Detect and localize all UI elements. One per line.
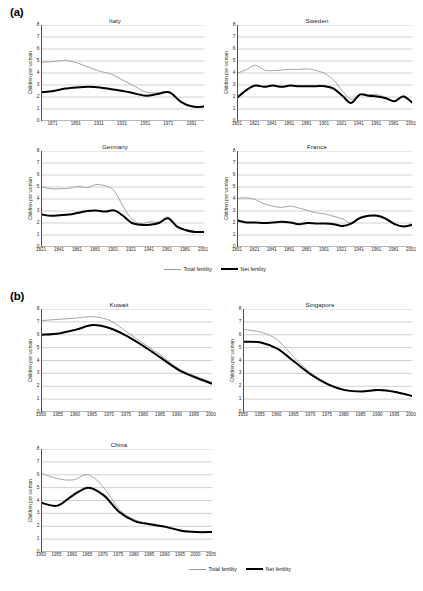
x-tick-label: 1901 [108, 248, 118, 253]
legend-entry-net: Net fertility [246, 566, 291, 572]
y-tick-label: 8 [233, 23, 236, 28]
x-tick-label: 1981 [389, 248, 399, 253]
x-tick-label: 1965 [82, 553, 92, 558]
x-tick-label: 1985 [144, 553, 154, 558]
x-tick-label: 1881 [302, 122, 312, 127]
y-tick-label: 7 [233, 35, 236, 40]
x-tick-label: 1980 [138, 413, 148, 418]
legend-label-total: Total fertility [184, 266, 212, 272]
x-tick-label: 1901 [319, 248, 329, 253]
x-tick-label: 1941 [354, 248, 364, 253]
x-axis-ticks: 1950195519601965197019751980198519901995… [26, 412, 212, 422]
x-tick-label: 1995 [189, 413, 199, 418]
x-tick-label: 1921 [336, 122, 346, 127]
x-tick-label: 1941 [354, 122, 364, 127]
x-tick-label: 1970 [305, 413, 315, 418]
x-axis-ticks: 1871189119111931195119711991 [26, 121, 204, 131]
y-tick-label: 8 [239, 307, 242, 312]
x-tick-label: 1965 [87, 413, 97, 418]
y-axis-label: Children per woman [26, 25, 34, 121]
x-axis-ticks: 1801182118411861188119011921194119611981… [222, 247, 412, 257]
y-tick-label: 8 [37, 307, 40, 312]
x-tick-label: 1861 [284, 122, 294, 127]
y-tick-label: 3 [37, 209, 40, 214]
plot-area [243, 309, 412, 412]
y-tick-label: 4 [37, 358, 40, 363]
chart-title: Italy [26, 16, 204, 25]
legend-panel-a: Total fertility Net fertility [120, 266, 310, 272]
y-axis-label: Children per woman [228, 309, 236, 412]
series-line-net-fertility [42, 325, 212, 384]
series-line-total-fertility [42, 473, 212, 532]
y-tick-label: 6 [37, 173, 40, 178]
y-tick-label: 3 [233, 83, 236, 88]
y-tick-label: 1 [37, 537, 40, 542]
x-tick-label: 1821 [249, 122, 259, 127]
legend-panel-b: Total fertility Net fertility [145, 566, 335, 572]
x-tick-label: 1961 [162, 248, 172, 253]
y-tick-label: 5 [233, 185, 236, 190]
y-tick-label: 8 [37, 447, 40, 452]
y-tick-label: 7 [239, 319, 242, 324]
y-tick-label: 6 [239, 332, 242, 337]
y-tick-label: 8 [37, 23, 40, 28]
legend-entry-total: Total fertility [164, 266, 212, 272]
series-line-total-fertility [244, 330, 412, 396]
x-tick-label: 1950 [36, 413, 46, 418]
plot-area [41, 151, 204, 247]
plot-area [41, 449, 212, 552]
x-tick-label: 1975 [322, 413, 332, 418]
x-tick-label: 1841 [54, 248, 64, 253]
y-tick-label: 3 [233, 209, 236, 214]
y-tick-label: 3 [37, 83, 40, 88]
net-fertility-line-icon [221, 268, 238, 270]
x-axis-ticks: 1801182118411861188119011921194119611981… [222, 121, 412, 131]
chart-italy: ItalyChildren per woman01234567818711891… [26, 16, 204, 131]
x-tick-label: 1970 [98, 553, 108, 558]
y-tick-label: 6 [37, 472, 40, 477]
x-tick-label: 1981 [389, 122, 399, 127]
chart-germany: GermanyChildren per woman012345678182118… [26, 142, 204, 257]
x-tick-label: 1970 [104, 413, 114, 418]
y-tick-label: 2 [37, 95, 40, 100]
x-tick-label: 2000 [206, 413, 216, 418]
y-tick-label: 5 [37, 185, 40, 190]
x-tick-label: 1941 [144, 248, 154, 253]
x-tick-label: 1861 [72, 248, 82, 253]
figure-page: (a) ItalyChildren per woman0123456781871… [0, 0, 423, 591]
x-tick-label: 1801 [232, 122, 242, 127]
x-axis-ticks: 1950195519601965197019751980198519901995… [26, 552, 212, 562]
y-tick-label: 6 [233, 47, 236, 52]
plot-area [237, 151, 412, 247]
x-tick-label: 1931 [117, 122, 127, 127]
y-tick-label: 5 [37, 485, 40, 490]
y-tick-label: 4 [233, 197, 236, 202]
y-axis-label: Children per woman [26, 151, 34, 247]
net-fertility-line-icon [246, 568, 263, 570]
y-tick-label: 4 [37, 71, 40, 76]
y-axis-ticks: 012345678 [34, 25, 41, 121]
legend-label-net: Net fertility [266, 566, 291, 572]
legend-label-total: Total fertility [209, 566, 237, 572]
x-tick-label: 1950 [238, 413, 248, 418]
y-tick-label: 6 [37, 47, 40, 52]
y-axis-label: Children per woman [222, 151, 230, 247]
x-tick-label: 1911 [94, 122, 104, 127]
chart-title: Sweden [222, 16, 412, 25]
chart-title: France [222, 142, 412, 151]
x-tick-label: 1980 [339, 413, 349, 418]
series-line-total-fertility [238, 198, 412, 226]
x-tick-label: 2005 [206, 553, 216, 558]
x-tick-label: 1985 [155, 413, 165, 418]
x-tick-label: 1975 [121, 413, 131, 418]
chart-title: Singapore [228, 300, 412, 309]
y-tick-label: 6 [233, 173, 236, 178]
y-tick-label: 8 [233, 149, 236, 154]
x-tick-label: 1990 [172, 413, 182, 418]
y-tick-label: 3 [37, 511, 40, 516]
panel-a-label: (a) [10, 6, 23, 18]
x-tick-label: 1995 [389, 413, 399, 418]
x-tick-label: 2001 [406, 248, 416, 253]
y-tick-label: 5 [239, 345, 242, 350]
y-tick-label: 3 [239, 371, 242, 376]
